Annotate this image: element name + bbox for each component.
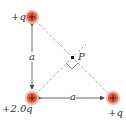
dimension-label-horizontal: a: [70, 92, 76, 102]
charge-label-top: +q: [11, 12, 26, 22]
point-p-marker: [71, 56, 74, 59]
charge-top: [25, 10, 39, 24]
dimension-label-vertical: a: [29, 52, 35, 62]
point-label: P: [78, 52, 85, 62]
charge-bottom-right: [106, 91, 120, 105]
charge-label-bottom-left: +2.0q: [2, 104, 33, 114]
charge-label-bottom-right: +q: [108, 108, 123, 118]
charge-diagram: +q +2.0q +q P a a: [0, 0, 126, 121]
right-angle-marker: [66, 63, 78, 69]
